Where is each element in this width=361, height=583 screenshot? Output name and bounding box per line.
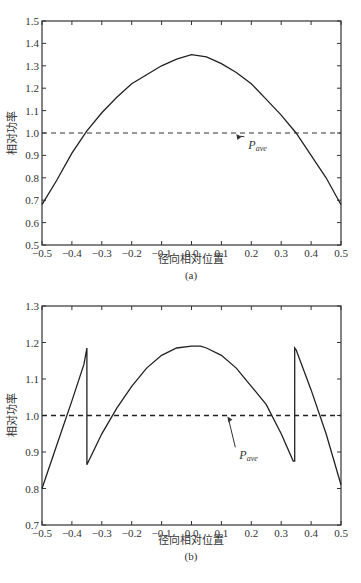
x-tick-label: −0.2	[122, 527, 142, 539]
y-tick-label: 1.2	[25, 82, 39, 94]
panel-b-chart: −0.5−0.4−0.3−0.2−0.10.00.10.20.30.40.50.…	[5, 300, 348, 563]
y-tick-label: 1.2	[25, 337, 39, 349]
arrowhead-icon	[236, 134, 241, 140]
arrowhead-icon	[227, 417, 232, 423]
y-axis-title-a: 相对功率	[5, 111, 19, 155]
x-tick-label: −0.3	[92, 247, 112, 259]
y-tick-label: 1.0	[25, 127, 39, 139]
x-axis-title-a: 径向相对位置	[158, 252, 224, 266]
x-tick-label: 0.5	[334, 527, 348, 539]
pave-label: Pave	[238, 448, 258, 463]
y-tick-label: 1.4	[25, 37, 39, 49]
x-tick-label: 0.2	[244, 247, 258, 259]
y-tick-label: 1.3	[25, 60, 39, 72]
y-tick-label: 0.9	[25, 446, 39, 458]
y-tick-label: 1.1	[25, 373, 39, 385]
x-axis-title-b: 径向相对位置	[158, 533, 224, 547]
x-tick-label: −0.3	[92, 527, 112, 539]
x-tick-label: 0.4	[304, 247, 318, 259]
y-tick-label: 0.5	[25, 239, 39, 251]
y-tick-label: 0.9	[25, 149, 39, 161]
panel-a-chart: −0.5−0.4−0.3−0.2−0.10.00.10.20.30.40.50.…	[5, 15, 348, 282]
x-tick-label: 0.3	[274, 247, 288, 259]
y-tick-label: 1.5	[25, 15, 39, 27]
x-tick-label: 0.5	[334, 247, 348, 259]
panel-label-b: (b)	[185, 550, 198, 563]
x-tick-label: −0.2	[122, 247, 142, 259]
y-tick-label: 0.7	[25, 194, 39, 206]
tick-labels-a: −0.5−0.4−0.3−0.2−0.10.00.10.20.30.40.50.…	[25, 15, 348, 259]
y-tick-label: 0.6	[25, 217, 39, 229]
annotation-arrow	[228, 419, 235, 448]
power-curve-a	[42, 55, 341, 205]
y-tick-label: 1.0	[25, 410, 39, 422]
tick-labels-b: −0.5−0.4−0.3−0.2−0.10.00.10.20.30.40.50.…	[25, 300, 348, 539]
y-axis-title-b: 相对功率	[5, 393, 19, 437]
x-tick-label: −0.4	[62, 247, 82, 259]
pave-label: Pave	[247, 138, 267, 153]
power-curve-b	[42, 346, 341, 488]
figure: −0.5−0.4−0.3−0.2−0.10.00.10.20.30.40.50.…	[0, 0, 361, 583]
y-tick-label: 0.8	[25, 483, 39, 495]
pave-annotation-b: Pave	[227, 417, 258, 464]
pave-annotation-a: Pave	[236, 134, 267, 153]
x-tick-label: 0.4	[304, 527, 318, 539]
y-tick-label: 0.7	[25, 519, 39, 531]
x-tick-label: 0.3	[274, 527, 288, 539]
x-tick-label: −0.4	[62, 527, 82, 539]
panel-label-a: (a)	[185, 269, 198, 282]
y-tick-label: 1.1	[25, 105, 39, 117]
x-tick-label: 0.2	[244, 527, 258, 539]
y-tick-label: 1.3	[25, 300, 39, 312]
y-tick-label: 0.8	[25, 172, 39, 184]
